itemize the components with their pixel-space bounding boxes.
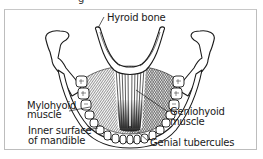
label-genial-tubercules: Genial tubercules [150,138,234,148]
label-inner-surface-line2: of mandible [28,136,85,146]
hyoid-bone [95,27,164,75]
label-mylohyoid-line2: muscle [27,110,62,120]
label-hyroid-bone: Hyroid bone [107,13,166,23]
label-geniohyoid-line2: muscle [170,117,205,127]
